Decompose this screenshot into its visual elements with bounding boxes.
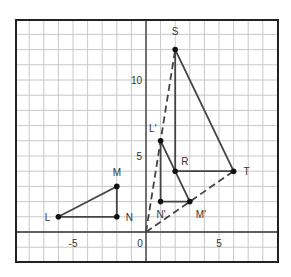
point-label-N: N [126, 212, 133, 223]
x-tick-label: 5 [216, 238, 222, 249]
point-T [231, 168, 237, 174]
point-N [114, 214, 120, 220]
point-L-prime [158, 138, 164, 144]
point-label-L-prime: L' [149, 123, 157, 134]
point-M-prime [187, 199, 193, 205]
point-S [172, 47, 178, 53]
point-label-M: M [113, 167, 121, 178]
point-N-prime [158, 199, 164, 205]
point-label-R: R [181, 156, 188, 167]
point-M [114, 184, 120, 190]
point-R [172, 168, 178, 174]
y-tick-label: 10 [131, 75, 143, 86]
point-label-L: L [45, 212, 51, 223]
x-tick-label: 0 [137, 238, 143, 249]
point-label-S: S [172, 26, 179, 37]
y-tick-label: 5 [136, 151, 142, 162]
coordinate-plane-diagram: -505510SRTL'N'M'LMN [0, 0, 291, 277]
point-label-N-prime: N' [157, 209, 166, 220]
point-L [56, 214, 62, 220]
point-label-T: T [244, 166, 250, 177]
point-label-M-prime: M' [196, 209, 206, 220]
x-tick-label: -5 [69, 238, 78, 249]
plot-svg: -505510SRTL'N'M'LMN [0, 0, 291, 277]
